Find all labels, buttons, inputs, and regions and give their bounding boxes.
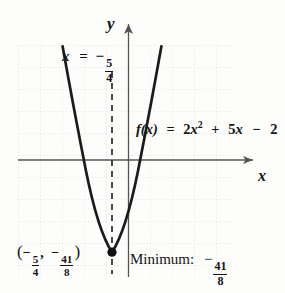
vertex-coordinates-label: (−54, −418): [17, 243, 80, 279]
function-variable: x: [191, 121, 198, 137]
axis-symmetry-numerator: 5: [105, 57, 113, 71]
parabola-figure: x y x x = −54 f(x) = 2x2 + 5x − 2 (−54, …: [0, 0, 285, 293]
y-axis-label: y: [107, 15, 115, 32]
axis-symmetry-denominator: 4: [105, 72, 113, 85]
function-coefficient-a: 2: [183, 121, 190, 137]
x-axis-label: x: [258, 168, 266, 184]
function-plus: +: [211, 121, 219, 137]
function-minus: −: [252, 121, 260, 137]
minimum-sign: −: [204, 251, 212, 267]
vertex-y-denominator: 8: [63, 266, 71, 279]
axis-of-symmetry-label: x = −54: [62, 49, 114, 85]
function-equals: =: [166, 121, 174, 137]
vertex-x-denominator: 4: [32, 266, 40, 279]
function-equation-label: f(x) = 2x2 + 5x − 2: [136, 120, 277, 136]
function-name: f(x): [136, 121, 158, 137]
vertex-x-sign: −: [23, 245, 31, 260]
axis-symmetry-equals: =: [79, 48, 88, 64]
minimum-numerator: 41: [213, 260, 227, 274]
minimum-denominator: 8: [216, 275, 224, 288]
function-exponent: 2: [198, 119, 203, 130]
minimum-prefix: Minimum:: [130, 251, 194, 267]
vertex-x-numerator: 5: [32, 253, 40, 267]
vertex-close-paren: ): [74, 242, 80, 261]
axis-symmetry-sign: −: [96, 48, 105, 64]
axis-symmetry-variable: x: [62, 48, 70, 64]
vertex-y-sign: −: [51, 245, 59, 260]
minimum-fraction: 418: [213, 260, 227, 288]
function-constant: 2: [270, 121, 277, 137]
y-axis-letter: y: [107, 14, 115, 33]
vertex-y-numerator: 41: [60, 253, 73, 267]
axis-symmetry-fraction: 54: [105, 57, 113, 85]
vertex-y-fraction: 418: [60, 253, 73, 279]
x-axis-letter: x: [258, 167, 266, 184]
function-variable-b: x: [235, 121, 242, 137]
vertex-x-fraction: 54: [32, 253, 40, 279]
vertex-point: [107, 248, 116, 257]
minimum-callout-label: Minimum: −418: [130, 252, 228, 288]
